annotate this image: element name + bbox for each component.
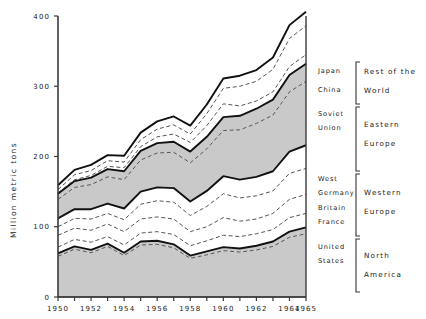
x-tick-label: 1962 — [245, 305, 267, 313]
legend-country-labels: JapanChinaSovietUnionWestGermanyBritainF… — [317, 67, 355, 265]
legend-group-label: Europe — [364, 139, 396, 148]
x-tick-label: 1950 — [47, 305, 69, 313]
y-tick-label: 0 — [44, 294, 50, 302]
y-tick-label: 200 — [33, 153, 50, 161]
legend-bracket — [356, 239, 360, 292]
legend-group-label: America — [364, 270, 402, 279]
legend-group-label: Western — [364, 188, 402, 197]
legend-country-label: United — [318, 243, 345, 251]
legend-group-labels: Rest of theWorldEasternEuropeWesternEuro… — [364, 67, 416, 279]
legend-country-label: China — [318, 86, 341, 94]
x-tick-label: 1952 — [80, 305, 102, 313]
x-axis-tick-labels: 195019521954195619581960196219641965 — [47, 305, 317, 313]
legend-country-label: Germany — [318, 189, 355, 197]
legend-country-label: France — [318, 218, 345, 226]
y-tick-label: 300 — [33, 83, 50, 91]
legend-group-label: Europe — [364, 207, 396, 216]
x-tick-label: 1958 — [179, 305, 201, 313]
legend-bracket — [356, 107, 360, 171]
y-tick-label: 400 — [33, 13, 50, 21]
y-axis-tick-labels: 0100200300400 — [33, 13, 50, 302]
legend-group-label: Eastern — [364, 120, 400, 129]
legend-bracket — [356, 174, 360, 236]
legend-country-label: Britain — [318, 204, 346, 212]
legend-country-label: Soviet — [318, 110, 344, 118]
y-tick-label: 100 — [33, 223, 50, 231]
legend-country-label: Japan — [317, 67, 341, 75]
legend-brackets — [356, 62, 360, 292]
legend-country-label: States — [318, 257, 344, 265]
legend-country-label: West — [318, 175, 338, 183]
legend-country-label: Union — [318, 124, 342, 132]
stacked-area-chart: Million metric tons 0100200300400 195019… — [0, 0, 426, 319]
x-tick-label: 1960 — [212, 305, 234, 313]
x-tick-label: 1956 — [146, 305, 168, 313]
chart-figure: Million metric tons 0100200300400 195019… — [0, 0, 426, 319]
y-axis-title: Million metric tons — [9, 142, 18, 238]
x-tick-label: 1965 — [295, 305, 317, 313]
legend-group-label: World — [364, 86, 391, 95]
legend-group-label: North — [364, 251, 390, 260]
x-tick-label: 1954 — [113, 305, 135, 313]
legend-group-label: Rest of the — [364, 67, 416, 76]
legend-bracket — [356, 62, 360, 104]
